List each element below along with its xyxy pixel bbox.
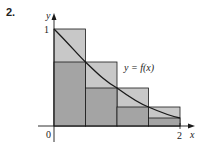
lower-rect-3 <box>117 107 149 126</box>
origin-label: 0 <box>46 129 51 140</box>
lower-rect-2 <box>86 88 118 126</box>
curve-label: y = f(x) <box>123 62 155 74</box>
x-axis-arrow-icon <box>188 124 195 129</box>
y-axis-label: y <box>45 10 51 21</box>
y-axis-arrow-icon <box>52 13 57 20</box>
riemann-sum-diagram: y x 1 0 2 y = f(x) <box>0 0 210 150</box>
x-axis-label: x <box>189 129 195 140</box>
lower-rect-4 <box>149 118 181 126</box>
lower-rect-1 <box>54 62 86 126</box>
x-tick-label-2: 2 <box>177 130 182 141</box>
y-tick-label-1: 1 <box>44 24 49 35</box>
